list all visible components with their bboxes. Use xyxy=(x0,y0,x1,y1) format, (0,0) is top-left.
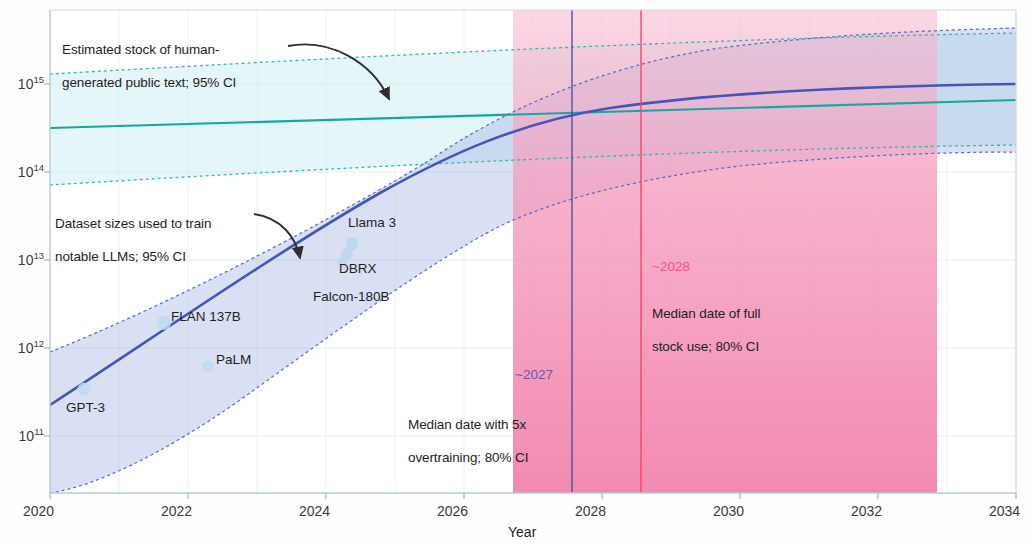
point-label-falcon-180b: Falcon-180B xyxy=(313,289,390,304)
fullstock-annotation: Median date of full stock use; 80% CI xyxy=(652,290,760,372)
y-tick-1e12: 1012 xyxy=(4,338,44,356)
x-tick-2020: 2020 xyxy=(23,503,54,519)
overtraining-annotation-line1: Median date with 5x xyxy=(408,417,528,433)
stock-annotation-line1: Estimated stock of human- xyxy=(62,42,236,58)
y-tick-1e11: 1011 xyxy=(4,426,44,444)
x-tick-2026: 2026 xyxy=(437,503,468,519)
x-axis-title: Year xyxy=(508,524,536,540)
chart-root: 1015 1014 1013 1012 1011 2020 2022 2024 … xyxy=(0,0,1034,545)
dataset-annotation-line1: Dataset sizes used to train xyxy=(55,216,211,232)
vline-label-2028: ~2028 xyxy=(652,259,690,274)
stock-annotation: Estimated stock of human- generated publ… xyxy=(62,26,236,108)
y-tick-1e13: 1013 xyxy=(4,250,44,268)
dataset-annotation-line2: notable LLMs; 95% CI xyxy=(55,249,211,265)
point-label-llama3: Llama 3 xyxy=(348,215,396,230)
point-label-palm: PaLM xyxy=(216,352,251,367)
y-tick-1e15: 1015 xyxy=(4,74,44,92)
point-label-flan-137b: FLAN 137B xyxy=(171,309,241,324)
overtraining-annotation: Median date with 5x overtraining; 80% CI xyxy=(408,401,528,483)
x-tick-marks xyxy=(50,493,1016,499)
x-tick-2022: 2022 xyxy=(161,503,192,519)
x-tick-2032: 2032 xyxy=(851,503,882,519)
pink-region xyxy=(513,10,937,493)
stock-annotation-line2: generated public text; 95% CI xyxy=(62,75,236,91)
point-label-gpt3: GPT-3 xyxy=(66,400,105,415)
x-tick-2024: 2024 xyxy=(299,503,330,519)
x-tick-2028: 2028 xyxy=(575,503,606,519)
dataset-annotation: Dataset sizes used to train notable LLMs… xyxy=(55,200,211,282)
point-label-dbrx: DBRX xyxy=(339,261,377,276)
fullstock-annotation-line2: stock use; 80% CI xyxy=(652,339,760,355)
vline-label-2027: ~2027 xyxy=(515,367,553,382)
fullstock-annotation-line1: Median date of full xyxy=(652,306,760,322)
x-tick-2034: 2034 xyxy=(989,503,1020,519)
y-tick-1e14: 1014 xyxy=(4,162,44,180)
x-tick-2030: 2030 xyxy=(713,503,744,519)
y-tick-marks xyxy=(44,84,50,436)
overtraining-annotation-line2: overtraining; 80% CI xyxy=(408,450,528,466)
